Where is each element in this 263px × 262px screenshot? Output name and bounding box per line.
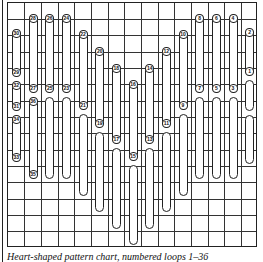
- loop-bar: [79, 114, 88, 196]
- loop-bar: [162, 132, 171, 212]
- loop-bar: [129, 80, 138, 161]
- loop-bar: [112, 148, 121, 229]
- loop-bar: [212, 14, 221, 93]
- loop-number-top: 16: [129, 80, 138, 89]
- grid-line-vertical: [191, 3, 192, 246]
- grid-line-vertical: [208, 3, 209, 246]
- loop-bar: [95, 47, 104, 128]
- loop-number-top: 10: [179, 30, 188, 39]
- loop-bar: [179, 30, 188, 110]
- loop-bar: [145, 148, 154, 229]
- loop-bar: [79, 30, 88, 110]
- loop-number-top: 4: [229, 14, 238, 23]
- loop-number-top: 18: [112, 64, 121, 73]
- heart-loop-diagram: 3029323134332827363526252423222120191817…: [0, 0, 263, 262]
- grid-line-vertical: [74, 3, 75, 246]
- loop-number-top: 12: [162, 47, 171, 56]
- loop-number-bottom: 1: [245, 67, 254, 76]
- loop-number-bottom: 3: [229, 84, 238, 93]
- grid-line-vertical: [158, 3, 159, 246]
- loop-number-bottom: 5: [212, 84, 221, 93]
- loop-number-top: 32: [12, 81, 21, 90]
- loop-bar: [229, 97, 238, 179]
- loop-bar: [229, 14, 238, 93]
- grid-line-vertical: [241, 3, 242, 246]
- loop-number-bottom: 21: [79, 101, 88, 110]
- loop-number-bottom: 25: [45, 84, 54, 93]
- loop-number-top: 28: [29, 14, 38, 23]
- loop-bar: [29, 97, 38, 179]
- loop-bar: [62, 97, 71, 179]
- loop-bar: [45, 97, 54, 179]
- loop-number-bottom: 15: [129, 152, 138, 161]
- loop-number-bottom: 7: [195, 84, 204, 93]
- loop-number-top: 30: [12, 29, 21, 38]
- loop-number-top: 24: [62, 14, 71, 23]
- grid-line-vertical: [124, 3, 125, 246]
- loop-number-top: 34: [12, 115, 21, 124]
- loop-number-top: 22: [79, 30, 88, 39]
- loop-number-top: 20: [95, 47, 104, 56]
- loop-number-bottom: 23: [62, 84, 71, 93]
- loop-number-top: 14: [145, 64, 154, 73]
- loop-bar: [62, 14, 71, 93]
- figure-caption: Heart-shaped pattern chart, numbered loo…: [7, 251, 208, 262]
- loop-number-top: 26: [45, 14, 54, 23]
- page-margin-rule: [2, 0, 3, 262]
- grid-line-vertical: [141, 3, 142, 246]
- loop-bar: [95, 132, 104, 212]
- loop-number-bottom: 29: [12, 68, 21, 77]
- loop-bar: [245, 115, 254, 164]
- loop-number-bottom: 31: [12, 102, 21, 111]
- loop-number-bottom: 35: [29, 170, 38, 179]
- loop-bar: [212, 97, 221, 179]
- loop-bar: [145, 64, 154, 144]
- loop-bar: [195, 97, 204, 179]
- loop-bar: [245, 80, 254, 111]
- loop-number-top: 36: [29, 97, 38, 106]
- grid-line-vertical: [24, 3, 25, 246]
- loop-number-bottom: 33: [12, 153, 21, 162]
- grid-line-vertical: [174, 3, 175, 246]
- loop-number-bottom: 11: [162, 119, 171, 128]
- loop-number-top: 8: [195, 14, 204, 23]
- loop-number-bottom: 19: [95, 119, 104, 128]
- loop-bar: [29, 14, 38, 93]
- loop-number-top: 2: [245, 28, 254, 37]
- loop-number-top: 6: [212, 14, 221, 23]
- grid-line-vertical: [58, 3, 59, 246]
- loop-number-bottom: 27: [29, 84, 38, 93]
- grid-line-vertical: [108, 3, 109, 246]
- loop-number-bottom: 13: [145, 135, 154, 144]
- loop-bar: [45, 14, 54, 93]
- loop-bar: [162, 47, 171, 128]
- loop-number-bottom: 17: [112, 135, 121, 144]
- grid-line-vertical: [41, 3, 42, 246]
- loop-bar: [129, 165, 138, 245]
- grid-frame: 3029323134332827363526252423222120191817…: [7, 2, 257, 247]
- loop-number-bottom: 9: [179, 101, 188, 110]
- grid-line-vertical: [91, 3, 92, 246]
- loop-bar: [195, 14, 204, 93]
- loop-bar: [179, 114, 188, 196]
- grid-line-vertical: [224, 3, 225, 246]
- loop-bar: [112, 64, 121, 144]
